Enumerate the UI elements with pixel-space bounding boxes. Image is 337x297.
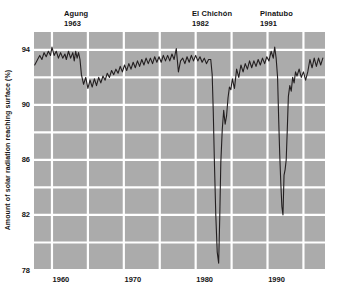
data-series-line-0 — [35, 47, 323, 263]
plot-svg — [34, 32, 325, 270]
x-tick-label: 1990 — [268, 275, 285, 284]
plot-area — [34, 32, 325, 270]
x-tick-label: 1960 — [53, 275, 70, 284]
chart-figure: Agung 1963 El Chichón 1982 Pinatubo 1991… — [0, 0, 337, 297]
data-series-group — [35, 47, 323, 263]
x-tick-label: 1980 — [196, 275, 213, 284]
x-tick-label: 1970 — [124, 275, 141, 284]
